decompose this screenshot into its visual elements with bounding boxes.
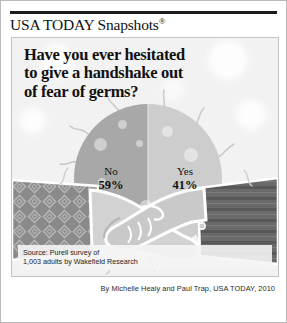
pie-labels: No 59% Yes 41%	[74, 166, 222, 210]
pie-label-yes-value: 41%	[148, 178, 222, 192]
germ-dot	[162, 126, 173, 137]
source-line-2: 1,003 adults by Wakefield Research	[23, 257, 268, 267]
germ-dot	[94, 138, 107, 151]
masthead-rule	[10, 11, 277, 14]
headline-line-3: of fear of germs?	[24, 83, 244, 101]
byline: By Michelle Healy and Paul Trap, USA TOD…	[10, 284, 277, 293]
bokeh-highlight	[236, 100, 266, 130]
masthead-title: USA TODAY Snapshots®	[10, 16, 277, 37]
cuff-button	[199, 223, 205, 229]
headline-line-1: Have you ever hesitated	[24, 46, 244, 64]
pie-label-yes-text: Yes	[148, 166, 222, 178]
masthead-brand: USA TODAY Snapshots	[10, 16, 159, 33]
snapshot-panel: Have you ever hesitated to give a handsh…	[11, 37, 279, 277]
pie-label-yes: Yes 41%	[148, 166, 222, 210]
pie-label-no-value: 59%	[74, 178, 148, 192]
pie-label-no: No 59%	[74, 166, 148, 210]
registered-trademark-icon: ®	[159, 16, 166, 26]
snapshot-figure: USA TODAY Snapshots® Have you ever hesit…	[0, 0, 287, 323]
germ-dot	[118, 120, 127, 129]
source-line-1: Source: Purell survey of	[23, 248, 268, 258]
pie-label-no-text: No	[74, 166, 148, 178]
bokeh-highlight	[20, 108, 46, 134]
source-note: Source: Purell survey of 1,003 adults by…	[18, 245, 272, 270]
page-title: Have you ever hesitated to give a handsh…	[24, 46, 244, 101]
germ-dot	[184, 148, 198, 162]
germ-dot	[136, 140, 143, 147]
headline-line-2: to give a handshake out	[24, 64, 244, 82]
